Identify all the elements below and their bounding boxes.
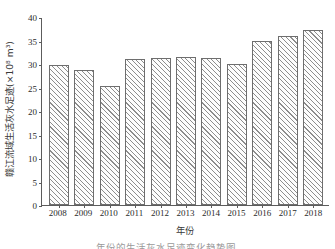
bar[interactable] — [100, 86, 120, 205]
bar-chart-figure: 赣江流域生活灰水足迹(×10⁸ m³) 0510152025303540 200… — [0, 0, 335, 249]
y-axis-tick-mark — [39, 89, 42, 90]
y-axis-tick-mark — [39, 18, 42, 19]
bar[interactable] — [176, 57, 196, 205]
x-axis-tick-label: 2013 — [173, 208, 199, 222]
bar-slot — [97, 18, 122, 205]
bar[interactable] — [74, 70, 94, 205]
x-axis-tick-label: 2018 — [300, 208, 326, 222]
bar-slot — [199, 18, 224, 205]
bar-slot — [46, 18, 71, 205]
y-axis-tick-label: 30 — [28, 60, 37, 70]
bar-series — [42, 18, 329, 205]
bar[interactable] — [49, 65, 69, 205]
x-axis-tick-label: 2009 — [71, 208, 97, 222]
bar-slot — [122, 18, 147, 205]
x-axis-title: 年份 — [41, 223, 329, 237]
y-axis-tick-mark — [39, 42, 42, 43]
bar-slot — [71, 18, 96, 205]
y-axis-tick-label: 10 — [28, 154, 37, 164]
x-axis-tick-label: 2010 — [96, 208, 122, 222]
y-axis-tick-mark — [39, 136, 42, 137]
bar[interactable] — [125, 59, 145, 205]
y-axis-tick-mark — [39, 183, 42, 184]
x-axis-tick-label: 2011 — [122, 208, 148, 222]
y-axis-tick-label: 35 — [28, 37, 37, 47]
y-axis-title: 赣江流域生活灰水足迹(×10⁸ m³) — [2, 41, 16, 177]
bar[interactable] — [252, 41, 272, 205]
x-axis-tick-label: 2015 — [224, 208, 250, 222]
y-axis-tick-mark — [39, 206, 42, 207]
bar[interactable] — [303, 30, 323, 205]
y-axis-tick-mark — [39, 159, 42, 160]
y-axis-tick-mark — [39, 65, 42, 66]
bar-slot — [224, 18, 249, 205]
bar[interactable] — [227, 64, 247, 205]
bar[interactable] — [278, 36, 298, 205]
x-axis-tick-label: 2017 — [275, 208, 301, 222]
x-axis-tick-label: 2014 — [198, 208, 224, 222]
y-axis-tick-label: 5 — [33, 178, 38, 188]
y-axis-tick-label: 0 — [33, 201, 38, 211]
y-axis-tick-label: 15 — [28, 131, 37, 141]
bar-slot — [275, 18, 300, 205]
x-axis-tick-label: 2016 — [249, 208, 275, 222]
cropped-caption-text: 年份的生活灰水足迹变化趋势图 — [96, 242, 335, 249]
x-axis-tick-label: 2012 — [147, 208, 173, 222]
y-axis-tick-label: 40 — [28, 13, 37, 23]
y-axis-tick-label: 20 — [28, 107, 37, 117]
bar-slot — [148, 18, 173, 205]
y-axis-tick-label: 25 — [28, 84, 37, 94]
y-axis-title-container: 赣江流域生活灰水足迹(×10⁸ m³) — [0, 18, 18, 200]
plot-area — [41, 18, 329, 206]
bar-slot — [173, 18, 198, 205]
bar-slot — [250, 18, 275, 205]
bar[interactable] — [201, 58, 221, 205]
x-axis-tick-labels: 2008200920102011201220132014201520162017… — [41, 208, 329, 222]
x-axis-tick-label: 2008 — [45, 208, 71, 222]
y-axis-tick-mark — [39, 112, 42, 113]
bar-slot — [301, 18, 326, 205]
y-axis-tick-labels: 0510152025303540 — [17, 12, 39, 206]
bar[interactable] — [151, 58, 171, 205]
